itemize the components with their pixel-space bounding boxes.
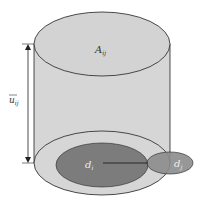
height-label: uij bbox=[9, 95, 19, 107]
outer-disk bbox=[147, 152, 193, 174]
svg-text:uij: uij bbox=[9, 95, 19, 107]
height-arrow bbox=[22, 44, 34, 163]
inner-disk bbox=[56, 143, 148, 187]
cylinder-diagram: Aij uij di dj bbox=[0, 0, 204, 206]
